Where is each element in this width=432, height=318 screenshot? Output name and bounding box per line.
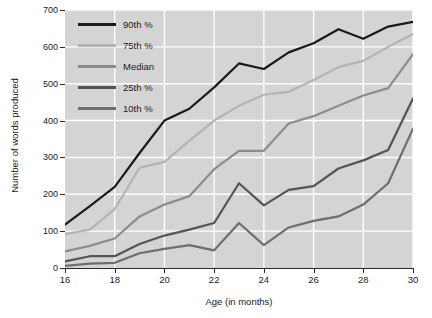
y-tick-mark — [60, 157, 65, 158]
y-tick-label: 0 — [18, 263, 58, 273]
legend-swatch-icon — [78, 44, 116, 47]
y-tick-label: 200 — [18, 189, 58, 199]
legend-label: 25th % — [123, 82, 153, 93]
y-tick-mark — [60, 84, 65, 85]
y-tick-label: 300 — [18, 152, 58, 162]
x-tick-label: 24 — [249, 274, 279, 285]
legend-item-2[interactable]: Median — [78, 56, 178, 77]
legend-item-1[interactable]: 75th % — [78, 35, 178, 56]
y-tick-mark — [60, 231, 65, 232]
y-tick-mark — [60, 10, 65, 11]
legend-item-3[interactable]: 25th % — [78, 77, 178, 98]
x-tick-label: 16 — [50, 274, 80, 285]
y-tick-mark — [60, 194, 65, 195]
y-tick-mark — [60, 121, 65, 122]
legend-item-0[interactable]: 90th % — [78, 14, 178, 35]
x-tick-label: 18 — [100, 274, 130, 285]
x-tick-label: 22 — [199, 274, 229, 285]
x-tick-label: 20 — [149, 274, 179, 285]
series-line-4 — [65, 129, 413, 266]
x-axis-title: Age (in months) — [65, 296, 413, 307]
x-tick-mark — [413, 268, 414, 273]
legend-label: Median — [123, 61, 154, 72]
y-axis-title: Number of words produced — [9, 26, 20, 246]
chart-legend: 90th %75th %Median25th %10th % — [78, 14, 178, 119]
x-axis-line — [65, 268, 413, 269]
legend-swatch-icon — [78, 86, 116, 89]
legend-label: 75th % — [123, 40, 153, 51]
y-tick-label: 600 — [18, 42, 58, 52]
y-tick-label: 100 — [18, 226, 58, 236]
y-tick-mark — [60, 47, 65, 48]
legend-swatch-icon — [78, 65, 116, 68]
x-tick-label: 26 — [299, 274, 329, 285]
legend-label: 10th % — [123, 103, 153, 114]
legend-item-4[interactable]: 10th % — [78, 98, 178, 119]
words-produced-line-chart: Number of words produced 010020030040050… — [0, 0, 432, 318]
y-tick-label: 400 — [18, 116, 58, 126]
x-tick-label: 30 — [398, 274, 428, 285]
y-tick-label: 700 — [18, 5, 58, 15]
legend-swatch-icon — [78, 23, 116, 26]
legend-swatch-icon — [78, 107, 116, 110]
legend-label: 90th % — [123, 19, 153, 30]
x-tick-label: 28 — [348, 274, 378, 285]
y-tick-label: 500 — [18, 79, 58, 89]
